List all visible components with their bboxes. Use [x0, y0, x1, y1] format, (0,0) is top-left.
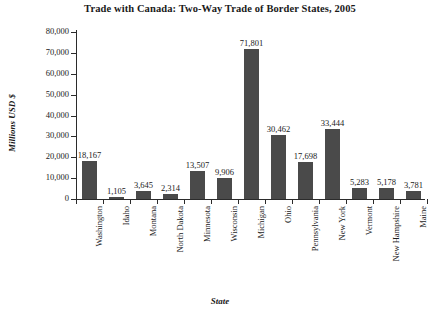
bar-value-label: 5,283: [350, 177, 369, 187]
bar[interactable]: [352, 188, 367, 199]
bar-group: 71,801: [238, 32, 265, 199]
bar-value-label: 71,801: [240, 38, 263, 48]
bar-group: 13,507: [184, 32, 211, 199]
bar[interactable]: [136, 191, 151, 199]
x-axis-tick: [130, 199, 131, 204]
bar-value-label: 5,178: [377, 177, 396, 187]
x-axis-label: Ohio: [283, 206, 293, 223]
x-axis-tick: [103, 199, 104, 204]
bar-group: 3,781: [400, 32, 427, 199]
bar[interactable]: [244, 49, 259, 199]
y-axis-title: Millions USD $: [7, 77, 17, 169]
bar-value-label: 30,462: [267, 124, 290, 134]
bar[interactable]: [271, 135, 286, 199]
bar-value-label: 13,507: [186, 160, 209, 170]
bar[interactable]: [163, 194, 178, 199]
x-axis-tick: [292, 199, 293, 204]
y-axis-tick-label: 70,000: [1, 47, 69, 57]
x-axis-tick: [265, 199, 266, 204]
bar-value-label: 33,444: [321, 118, 344, 128]
x-axis-tick: [157, 199, 158, 204]
plot-area: 18,1671,1053,6452,31413,5079,90671,80130…: [76, 32, 425, 199]
bar-group: 33,444: [319, 32, 346, 199]
x-axis-tick: [373, 199, 374, 204]
x-axis-label: North Dakota: [175, 206, 185, 253]
bar-value-label: 9,906: [215, 167, 234, 177]
bar[interactable]: [406, 191, 421, 199]
bar-value-label: 2,314: [161, 183, 180, 193]
bar-group: 3,645: [130, 32, 157, 199]
bar-group: 5,178: [373, 32, 400, 199]
bar[interactable]: [190, 171, 205, 199]
bar-group: 5,283: [346, 32, 373, 199]
bar-value-label: 18,167: [78, 150, 101, 160]
bar-group: 2,314: [157, 32, 184, 199]
x-axis-label: New Hampshire: [391, 206, 401, 261]
x-axis-tick: [211, 199, 212, 204]
chart-title: Trade with Canada: Two-Way Trade of Bord…: [0, 3, 440, 14]
x-axis-label: Pennsylvania: [310, 206, 320, 251]
x-axis-label: Washington: [94, 206, 104, 246]
x-axis-title: State: [0, 296, 440, 306]
bar[interactable]: [217, 178, 232, 199]
bar[interactable]: [82, 161, 97, 199]
x-axis-tick: [76, 199, 77, 204]
bar-group: 9,906: [211, 32, 238, 199]
bar-value-label: 3,781: [404, 180, 423, 190]
y-axis-tick-label: 0: [1, 193, 69, 203]
x-axis-label: Vermont: [364, 206, 374, 235]
bar[interactable]: [109, 197, 124, 199]
x-axis-tick: [238, 199, 239, 204]
footer-text-sliver: [6, 325, 226, 329]
x-axis-label: Montana: [148, 206, 158, 236]
bar[interactable]: [379, 188, 394, 199]
x-axis-tick: [427, 199, 428, 204]
x-axis-tick: [319, 199, 320, 204]
bar[interactable]: [325, 129, 340, 199]
x-axis-tick: [346, 199, 347, 204]
bar-group: 30,462: [265, 32, 292, 199]
x-axis-tick: [184, 199, 185, 204]
y-axis-tick-label: 10,000: [1, 172, 69, 182]
bar-value-label: 3,645: [134, 180, 153, 190]
x-axis-label: Wisconsin: [229, 206, 239, 242]
bar[interactable]: [298, 162, 313, 199]
x-axis-label: Minnesota: [202, 206, 212, 242]
bar-group: 17,698: [292, 32, 319, 199]
y-axis-tick-label: 80,000: [1, 26, 69, 36]
x-axis-label: Michigan: [256, 206, 266, 239]
bar-group: 18,167: [76, 32, 103, 199]
x-axis-tick: [400, 199, 401, 204]
x-axis-label: Maine: [418, 206, 428, 228]
bar-group: 1,105: [103, 32, 130, 199]
x-axis-label: Idaho: [121, 206, 131, 225]
bar-value-label: 17,698: [294, 151, 317, 161]
bar-value-label: 1,105: [107, 186, 126, 196]
x-axis-label: New York: [337, 206, 347, 240]
chart-container: Trade with Canada: Two-Way Trade of Bord…: [0, 0, 440, 329]
